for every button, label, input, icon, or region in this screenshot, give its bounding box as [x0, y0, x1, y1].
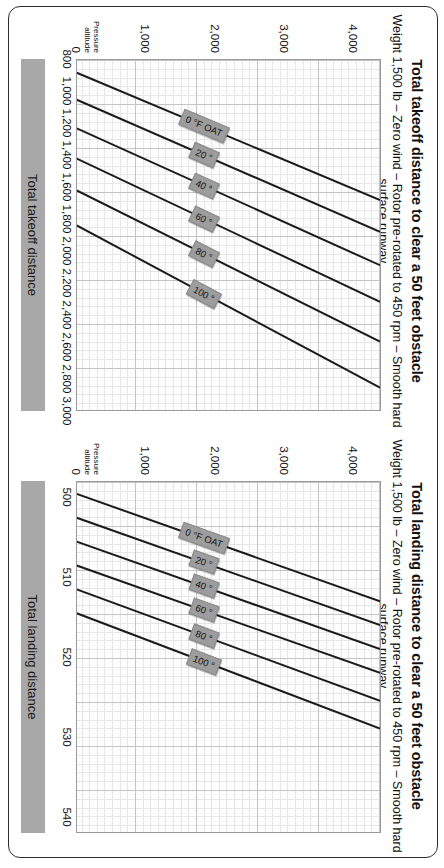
series-line: [77, 225, 380, 387]
chart-page-card: Total takeoff distance to clear a 50 fee…: [8, 6, 438, 858]
x-tick-label: 2,400: [61, 301, 73, 330]
series-line: [77, 494, 380, 601]
landing-plot: 500510520530540 01,0002,0003,0004,000Pre…: [76, 481, 381, 833]
y-tick-label: 1,000: [139, 24, 151, 53]
series-line: [77, 518, 380, 625]
y-tick-label: 1,000: [139, 446, 151, 475]
x-tick-label: 1,200: [61, 109, 73, 138]
y-tick-label: 2,000: [209, 24, 221, 53]
y-tick-label: 0: [70, 469, 82, 475]
takeoff-plot: 8001,0001,2001,4001,6001,8002,0002,2002,…: [76, 59, 381, 411]
y-tick-label: 4,000: [347, 446, 359, 475]
x-tick-label: 2,600: [61, 333, 73, 362]
x-tick-label: 500: [61, 487, 73, 506]
x-tick-label: 2,000: [61, 237, 73, 266]
x-tick-label: 2,800: [61, 365, 73, 394]
x-tick-label: 1,000: [61, 77, 73, 106]
series-line: [77, 566, 380, 673]
y-tick-label: 0: [70, 47, 82, 53]
landing-x-axis-caption: Total landing distance: [21, 481, 45, 833]
y-tick-label: 2,000: [209, 446, 221, 475]
landing-series-lines: [77, 482, 380, 832]
takeoff-chart-block: Total takeoff distance to clear a 50 fee…: [7, 7, 437, 435]
series-line: [77, 100, 380, 232]
y-tick-label: 3,000: [278, 24, 290, 53]
x-tick-label: 2,200: [61, 269, 73, 298]
takeoff-x-axis-caption: Total takeoff distance: [21, 59, 45, 411]
takeoff-plot-area: [76, 59, 381, 411]
series-line: [77, 190, 380, 341]
y-tick-label: 3,000: [278, 446, 290, 475]
x-tick-label: 1,600: [61, 173, 73, 202]
series-line: [77, 128, 380, 265]
landing-chart-block: Total landing distance to clear a 50 fee…: [7, 433, 437, 859]
x-tick-label: 540: [61, 807, 73, 826]
rotated-page-wrapper: Total takeoff distance to clear a 50 fee…: [0, 0, 444, 868]
landing-plot-area: [76, 481, 381, 833]
y-tick-label: 4,000: [347, 24, 359, 53]
series-line: [77, 613, 380, 728]
x-tick-label: 520: [61, 647, 73, 666]
takeoff-chart-title: Total takeoff distance to clear a 50 fee…: [409, 7, 425, 435]
takeoff-series-lines: [77, 60, 380, 410]
x-tick-label: 1,800: [61, 205, 73, 234]
x-tick-label: 530: [61, 727, 73, 746]
takeoff-y-tick-labels: 01,0002,0003,0004,000Pressurealtitude: [76, 7, 381, 59]
landing-chart-title: Total landing distance to clear a 50 fee…: [409, 433, 425, 859]
landing-y-tick-labels: 01,0002,0003,0004,000Pressurealtitude: [76, 429, 381, 481]
x-tick-label: 1,400: [61, 141, 73, 170]
series-line: [77, 542, 380, 649]
x-tick-label: 510: [61, 567, 73, 586]
y-axis-caption: Pressurealtitude: [83, 21, 101, 53]
series-line: [77, 589, 380, 700]
y-axis-caption: Pressurealtitude: [83, 443, 101, 475]
x-tick-label: 3,000: [61, 397, 73, 426]
